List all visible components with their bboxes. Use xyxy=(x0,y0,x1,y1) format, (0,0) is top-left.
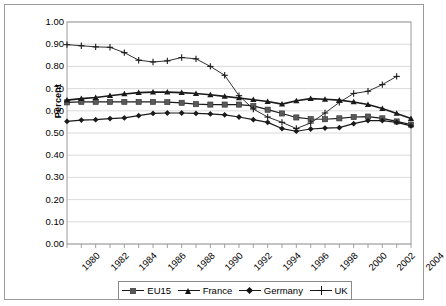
legend-marker-triangle-icon xyxy=(178,286,200,296)
legend-item-uk: UK xyxy=(310,285,348,296)
legend-label-eu15: EU15 xyxy=(147,285,171,296)
legend-item-eu15: EU15 xyxy=(122,285,171,296)
legend-marker-square-icon xyxy=(122,286,144,296)
legend-marker-diamond-icon xyxy=(239,286,261,296)
legend-label-germany: Germany xyxy=(264,285,303,296)
legend-marker-plus-icon xyxy=(310,286,332,296)
legend-label-france: France xyxy=(203,285,233,296)
legend-item-france: France xyxy=(178,285,233,296)
legend-label-uk: UK xyxy=(335,285,348,296)
chart-legend: EU15 France Germany UK xyxy=(118,281,352,300)
legend-item-germany: Germany xyxy=(239,285,303,296)
series-germany xyxy=(64,110,414,134)
